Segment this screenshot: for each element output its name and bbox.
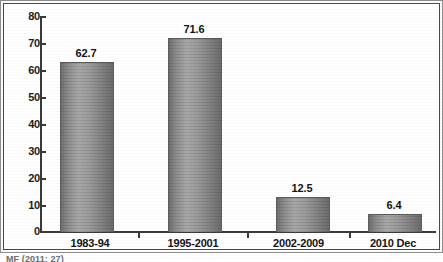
- y-tick-mark-80: [42, 16, 46, 18]
- bar-texture: [277, 198, 329, 232]
- bar-value-1995-2001: 71.6: [168, 23, 220, 35]
- x-axis-label-1995-2001: 1995-2001: [139, 237, 247, 249]
- bar-2002-2009: [276, 197, 330, 232]
- y-tick-0: 0: [5, 226, 40, 237]
- y-tick-label-0: 0: [14, 226, 40, 237]
- y-tick-10: 10: [5, 200, 40, 211]
- y-tick-mark-50: [42, 97, 46, 99]
- x-axis-label-1983-94: 1983-94: [42, 237, 138, 249]
- figure-source-footnote: MF (2011: 27): [6, 253, 64, 262]
- bar-1983-94: [60, 62, 114, 232]
- y-tick-label-40: 40: [14, 119, 40, 130]
- y-tick-50: 50: [5, 92, 40, 103]
- y-tick-label-60: 60: [14, 65, 40, 76]
- bar-2010-dec: [368, 214, 422, 232]
- y-tick-mark-60: [42, 70, 46, 72]
- y-tick-label-10: 10: [14, 200, 40, 211]
- y-tick-70: 70: [5, 38, 40, 49]
- y-tick-label-80: 80: [14, 11, 40, 22]
- y-tick-mark-30: [42, 151, 46, 153]
- y-tick-20: 20: [5, 173, 40, 184]
- bar-1995-2001: [168, 38, 222, 232]
- x-axis-label-2002-2009: 2002-2009: [248, 237, 349, 249]
- y-tick-mark-70: [42, 43, 46, 45]
- y-tick-label-20: 20: [14, 173, 40, 184]
- y-tick-40: 40: [5, 119, 40, 130]
- bar-texture: [61, 63, 113, 232]
- chart-screenshot: 80 70 60 50 40 30 20 10 0 62.7 71.6: [0, 0, 443, 262]
- bar-value-1983-94: 62.7: [60, 47, 112, 59]
- y-tick-mark-20: [42, 178, 46, 180]
- bar-texture: [169, 39, 221, 232]
- bar-texture: [369, 215, 421, 232]
- y-tick-mark-0: [42, 231, 46, 233]
- y-tick-80: 80: [5, 11, 40, 22]
- plot-area: 80 70 60 50 40 30 20 10 0 62.7 71.6: [5, 5, 438, 248]
- y-tick-label-30: 30: [14, 146, 40, 157]
- bar-value-2010-dec: 6.4: [368, 199, 420, 211]
- y-tick-label-50: 50: [14, 92, 40, 103]
- y-tick-30: 30: [5, 146, 40, 157]
- y-tick-label-70: 70: [14, 38, 40, 49]
- bar-value-2002-2009: 12.5: [276, 182, 328, 194]
- y-tick-mark-10: [42, 205, 46, 207]
- x-axis-label-2010-dec: 2010 Dec: [350, 237, 436, 249]
- y-tick-mark-40: [42, 124, 46, 126]
- y-tick-60: 60: [5, 65, 40, 76]
